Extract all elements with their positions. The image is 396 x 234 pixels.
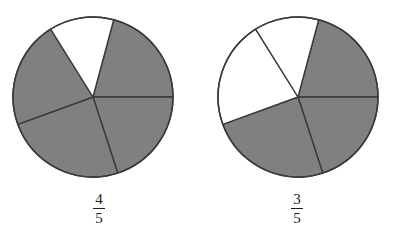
pie-circle-left — [12, 16, 174, 178]
fraction-circles-figure: 4 5 3 5 — [0, 0, 396, 234]
fraction-circle-right: 3 5 — [198, 0, 396, 234]
pie-circle-right — [217, 16, 379, 178]
fraction-denominator-right: 5 — [291, 210, 303, 226]
fraction-numerator-right: 3 — [291, 192, 303, 208]
fraction-circle-left: 4 5 — [0, 0, 198, 234]
pie-circle-right-wrap — [217, 16, 379, 178]
fraction-left: 4 5 — [93, 192, 105, 226]
fraction-denominator-left: 5 — [93, 210, 105, 226]
fraction-bar-left — [93, 208, 105, 209]
fraction-label-right: 3 5 — [198, 192, 396, 226]
pie-circle-left-wrap — [12, 16, 174, 178]
fraction-numerator-left: 4 — [93, 192, 105, 208]
fraction-bar-right — [291, 208, 303, 209]
fraction-label-left: 4 5 — [0, 192, 198, 226]
fraction-right: 3 5 — [291, 192, 303, 226]
